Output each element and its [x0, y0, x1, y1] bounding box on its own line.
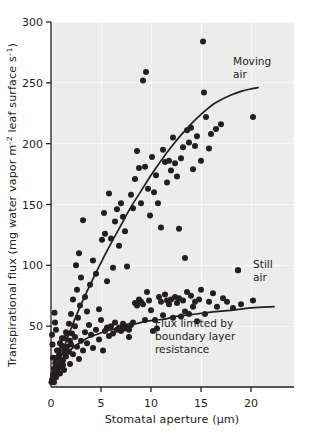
data-point [143, 69, 149, 75]
chart-canvas: 50100150200250300 05101520 Transpiration… [0, 0, 312, 437]
data-point [96, 337, 102, 343]
data-point [148, 307, 154, 313]
data-point [126, 334, 132, 340]
data-point [250, 298, 256, 304]
data-point [178, 155, 184, 161]
data-point [155, 200, 161, 206]
data-point [72, 334, 78, 340]
data-point [134, 148, 140, 154]
data-point [158, 299, 164, 305]
x-tick-label: 10 [144, 397, 158, 410]
data-point [61, 367, 67, 373]
data-point [80, 217, 86, 223]
data-point [132, 176, 138, 182]
data-point [124, 264, 130, 270]
still-air-label-line1: Still [253, 258, 273, 270]
data-point [90, 257, 96, 263]
data-point [214, 304, 220, 310]
y-axis-title: Transpirational flux (mg water vapor m–2… [5, 43, 19, 368]
data-point [93, 327, 99, 333]
y-tick-label: 50 [29, 320, 43, 333]
data-point [206, 299, 212, 305]
data-point [116, 243, 122, 249]
y-tick-label: 200 [22, 138, 43, 151]
data-point [144, 289, 150, 295]
data-point [142, 164, 148, 170]
data-point [76, 356, 82, 362]
data-point [210, 290, 216, 296]
y-tick-label: 100 [22, 259, 43, 272]
x-tick-label: 5 [98, 397, 105, 410]
data-point [74, 287, 80, 293]
data-point [110, 265, 116, 271]
data-point [67, 361, 73, 367]
data-point [52, 310, 58, 316]
data-point [182, 255, 188, 261]
data-point [80, 348, 86, 354]
transpiration-figure: 50100150200250300 05101520 Transpiration… [0, 0, 312, 437]
data-point [147, 212, 153, 218]
data-point [140, 77, 146, 83]
data-point [90, 345, 96, 351]
data-point [151, 189, 157, 195]
x-tick-label: 20 [244, 397, 258, 410]
data-point [104, 278, 110, 284]
data-point [162, 292, 168, 298]
data-point [106, 191, 112, 197]
data-point [180, 144, 186, 150]
data-point [114, 206, 120, 212]
data-point [145, 186, 151, 192]
data-point [101, 210, 107, 216]
data-point [59, 335, 65, 341]
y-tick-label: 300 [22, 16, 43, 29]
data-point [153, 172, 159, 178]
data-point [198, 287, 204, 293]
data-point [112, 219, 118, 225]
data-point [174, 174, 180, 180]
data-point [128, 192, 134, 198]
data-point [206, 146, 212, 152]
data-point [102, 231, 108, 237]
data-point [180, 298, 186, 304]
data-point [78, 275, 84, 281]
data-point [188, 293, 194, 299]
boundary-label-line1: Flux limited by [155, 317, 233, 329]
data-point [170, 135, 176, 141]
y-tick-label: 150 [22, 199, 43, 212]
data-point [190, 166, 196, 172]
data-point [201, 90, 207, 96]
data-point [149, 154, 155, 160]
data-point [146, 298, 152, 304]
data-point [82, 329, 88, 335]
data-point [176, 226, 182, 232]
data-point [122, 228, 128, 234]
data-point [86, 322, 92, 328]
data-point [164, 180, 170, 186]
y-axis-tick-labels: 50100150200250300 [22, 16, 43, 333]
data-point [186, 139, 192, 145]
data-point [213, 126, 219, 132]
data-point [73, 262, 79, 268]
x-axis-tick-labels: 05101520 [48, 397, 259, 410]
data-point [250, 114, 256, 120]
y-tick-label: 250 [22, 77, 43, 90]
data-point [70, 296, 76, 302]
data-point [218, 121, 224, 127]
data-point [100, 348, 106, 354]
still-air-label-line2: air [253, 271, 267, 283]
data-point [192, 143, 198, 149]
data-point [99, 237, 105, 243]
data-point [224, 299, 230, 305]
data-point [203, 114, 209, 120]
data-point [84, 340, 90, 346]
data-point [168, 167, 174, 173]
boundary-label-line3: resistance [155, 343, 209, 355]
data-point [68, 311, 74, 317]
data-point [52, 320, 58, 326]
data-point [238, 301, 244, 307]
data-point [160, 147, 166, 153]
data-point [96, 306, 102, 312]
data-point [198, 158, 204, 164]
data-point [136, 165, 142, 171]
data-point [200, 38, 206, 44]
